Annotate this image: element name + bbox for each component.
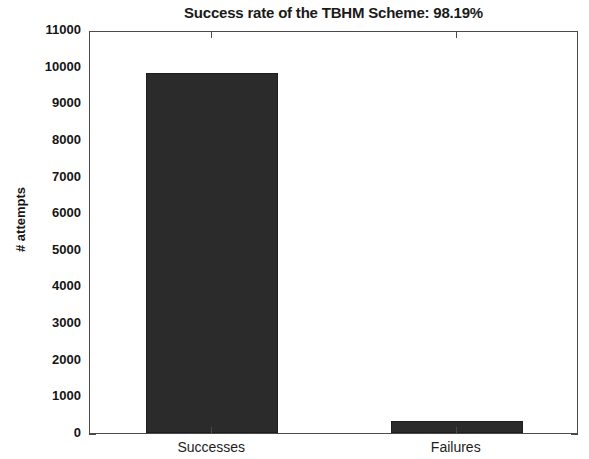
plot-area [89, 31, 578, 434]
x-tick-mark [211, 31, 212, 38]
y-tick-label: 4000 [11, 278, 81, 293]
bars-layer [90, 32, 577, 433]
y-tick-label: 3000 [11, 315, 81, 330]
x-tick-label: Failures [376, 439, 536, 455]
y-tick-label: 6000 [11, 205, 81, 220]
y-tick-mark [89, 434, 96, 435]
x-tick-mark [456, 427, 457, 434]
x-tick-label: Successes [131, 439, 291, 455]
y-tick-label: 5000 [11, 242, 81, 257]
bar-successes [146, 73, 278, 433]
y-tick-label: 0 [11, 425, 81, 440]
y-tick-label: 9000 [11, 95, 81, 110]
y-tick-label: 8000 [11, 132, 81, 147]
y-tick-label: 1000 [11, 388, 81, 403]
y-tick-label: 10000 [11, 59, 81, 74]
y-tick-label: 11000 [11, 22, 81, 37]
y-tick-label: 2000 [11, 352, 81, 367]
x-tick-mark [211, 427, 212, 434]
bar-failures [391, 421, 523, 433]
chart-title: Success rate of the TBHM Scheme: 98.19% [89, 4, 578, 21]
y-tick-mark [571, 434, 578, 435]
x-tick-mark [456, 31, 457, 38]
figure-canvas: Success rate of the TBHM Scheme: 98.19% … [0, 0, 589, 459]
y-tick-label: 7000 [11, 169, 81, 184]
